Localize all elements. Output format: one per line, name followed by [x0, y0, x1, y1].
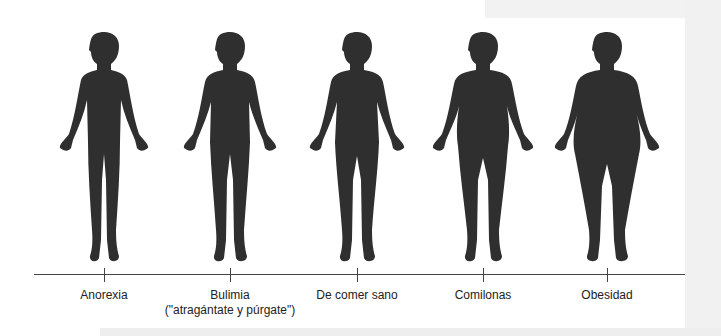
person-silhouette-icon [175, 30, 285, 266]
silhouette-obesidad [552, 30, 662, 266]
tick-anorexia [104, 268, 105, 282]
diagram-panel: Anorexia Bulimia ("atragántate y púrgate… [0, 0, 685, 328]
background-strip-right [685, 0, 721, 336]
tick-de-comer-sano [357, 268, 358, 282]
person-silhouette-icon [49, 30, 159, 266]
tick-bulimia [230, 268, 231, 282]
person-silhouette-icon [552, 30, 662, 266]
silhouette-de-comer-sano [302, 30, 412, 266]
label-obesidad: Obesidad [517, 288, 697, 303]
silhouette-anorexia [49, 30, 159, 266]
background-strip-bottom [100, 328, 721, 336]
silhouette-bulimia [175, 30, 285, 266]
tick-obesidad [607, 268, 608, 282]
person-silhouette-icon [302, 30, 412, 266]
tick-comilonas [483, 268, 484, 282]
person-silhouette-icon [428, 30, 538, 266]
spectrum-axis [34, 274, 685, 275]
silhouette-comilonas [428, 30, 538, 266]
